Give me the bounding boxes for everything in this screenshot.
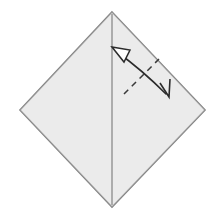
origami-diagram-svg: Origami square with vertical center crea… <box>0 0 219 214</box>
origami-diagram-canvas: Origami square with vertical center crea… <box>0 0 219 214</box>
